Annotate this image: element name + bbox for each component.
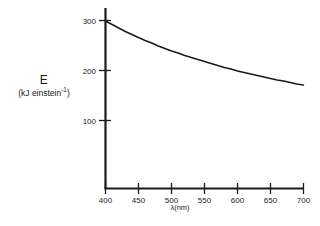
x-tick-label-650: 650 [264,196,278,205]
y-tick-label-300: 300 [83,17,97,26]
y-axis-label-symbol: E [2,74,86,88]
y-axis-tick-labels: 300 200 100 [83,17,97,126]
energy-curve [106,21,304,85]
y-axis-label-units: (kJ einstein-1) [2,89,86,99]
chart-figure: 300 200 100 400 450 500 550 600 650 700 [0,0,320,226]
energy-vs-wavelength-plot: 300 200 100 400 450 500 550 600 650 700 [0,0,320,226]
y-axis-label: E (kJ einstein-1) [2,74,86,99]
x-axis-label: λ(nm) [150,204,210,213]
y-axis-units-paren: ) [67,88,70,98]
x-tick-label-400: 400 [99,196,113,205]
x-tick-label-700: 700 [297,196,311,205]
y-tick-label-100: 100 [83,117,97,126]
y-axis-units-text: (kJ einstein [18,88,61,98]
x-tick-label-600: 600 [231,196,245,205]
x-tick-label-450: 450 [132,196,146,205]
